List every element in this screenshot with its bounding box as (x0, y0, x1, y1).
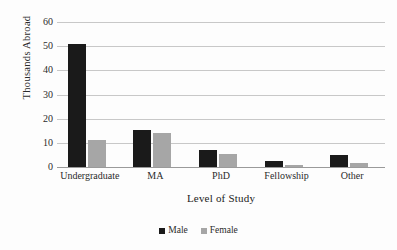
y-tick-label: 40 (31, 65, 53, 75)
y-tick-label: 0 (31, 162, 53, 172)
bar-female-other (350, 163, 368, 167)
bar-group (319, 22, 385, 167)
x-axis-title: Level of Study (57, 192, 385, 204)
y-tick-label: 30 (31, 90, 53, 100)
chart-legend: MaleFemale (0, 226, 397, 236)
bar-male-phd (199, 150, 217, 167)
bar-chart-figure: …………………………………………………… Thousands Abroad 01… (0, 0, 397, 250)
bar-group (188, 22, 254, 167)
bar-male-fellowship (265, 161, 283, 167)
legend-label: Female (210, 226, 238, 236)
y-axis-tick-labels: 0102030405060 (28, 22, 53, 167)
legend-swatch-male-icon (159, 228, 165, 234)
x-tick-label: Fellowship (254, 169, 320, 182)
legend-item-male: Male (159, 226, 188, 236)
y-tick-label: 10 (31, 138, 53, 148)
axis-baseline (57, 167, 385, 168)
legend-label: Male (168, 226, 188, 236)
y-tick-label: 50 (31, 41, 53, 51)
y-tick-label: 60 (31, 17, 53, 27)
legend-swatch-female-icon (201, 228, 207, 234)
legend-item-female: Female (201, 226, 238, 236)
bar-male-ma (133, 130, 151, 167)
bar-male-other (330, 155, 348, 167)
bar-female-undergraduate (88, 140, 106, 167)
x-tick-label: PhD (188, 169, 254, 182)
scan-artifact-strip: …………………………………………………… (0, 0, 397, 8)
x-tick-label: Undergraduate (57, 169, 123, 182)
bar-female-phd (219, 154, 237, 167)
x-axis-tick-labels: UndergraduateMAPhDFellowshipOther (57, 169, 385, 185)
bar-female-ma (153, 133, 171, 167)
x-tick-label: MA (123, 169, 189, 182)
y-tick-label: 20 (31, 114, 53, 124)
scan-artifact-text: …………………………………………………… (4, 0, 393, 1)
bar-group (57, 22, 123, 167)
bar-group (254, 22, 320, 167)
bars-layer (57, 22, 385, 167)
bar-group (123, 22, 189, 167)
bar-male-undergraduate (68, 44, 86, 167)
x-tick-label: Other (319, 169, 385, 182)
bar-female-fellowship (285, 165, 303, 167)
